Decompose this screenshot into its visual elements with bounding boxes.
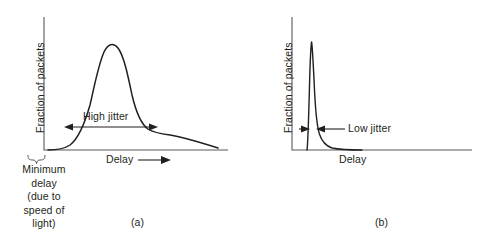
panel-a-high-jitter-label: High jitter	[83, 110, 128, 124]
panel-b-low-jitter-label: Low jitter	[348, 122, 391, 136]
minimum-delay-line-2: delay	[7, 177, 81, 191]
panel-a-caption: (a)	[131, 216, 144, 230]
panel-a-delay-arrow	[138, 156, 171, 164]
panel-a-minimum-delay-note: Minimum delay (due to speed of light)	[7, 163, 81, 231]
minimum-delay-line-3: (due to	[7, 190, 81, 204]
arrow-head-left	[64, 123, 73, 130]
panel-b-ylabel: Fraction of packets	[282, 42, 296, 133]
arrow-head-right	[149, 123, 158, 130]
panel-a	[28, 17, 228, 164]
panel-b-caption: (b)	[375, 216, 388, 230]
panel-b-low-jitter-arrows	[299, 125, 345, 132]
panel-a-axes	[44, 17, 228, 150]
minimum-delay-line-4: speed of	[7, 204, 81, 218]
panel-a-xlabel: Delay	[106, 153, 133, 167]
panel-b-xlabel: Delay	[339, 153, 366, 167]
minimum-delay-line-1: Minimum	[7, 163, 81, 177]
figure-root: Fraction of packets High jitter Delay Mi…	[0, 0, 497, 237]
arrow-head-delay	[161, 156, 171, 164]
panel-a-curve	[48, 45, 218, 150]
minimum-delay-line-5: light)	[7, 217, 81, 231]
panel-a-ylabel: Fraction of packets	[34, 42, 48, 133]
